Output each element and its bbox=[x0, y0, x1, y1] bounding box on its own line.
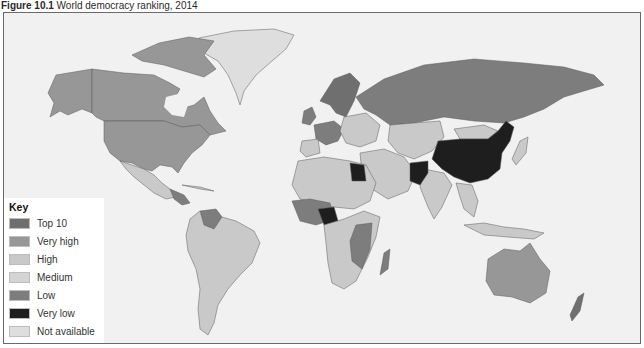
legend-item-very-high: Very high bbox=[9, 234, 79, 248]
legend-title: Key bbox=[9, 201, 28, 213]
legend-swatch bbox=[9, 326, 30, 337]
legend-label: Low bbox=[37, 290, 55, 301]
region-russia bbox=[356, 59, 604, 125]
legend-swatch bbox=[9, 290, 30, 301]
legend-label: High bbox=[37, 254, 58, 265]
region-egypt bbox=[350, 163, 366, 181]
region-iberia bbox=[300, 139, 320, 157]
region-indonesia bbox=[464, 223, 544, 239]
legend-swatch bbox=[9, 272, 30, 283]
region-south-america bbox=[186, 211, 260, 335]
region-central-america bbox=[170, 189, 190, 205]
map-legend: Key Top 10 Very high High Medium Low Ver… bbox=[4, 198, 104, 343]
legend-item-high: High bbox=[9, 252, 58, 266]
figure-title: Figure 10.1 World democracy ranking, 201… bbox=[1, 0, 198, 11]
region-eastern-europe bbox=[340, 113, 380, 147]
region-usa bbox=[104, 121, 210, 173]
region-scandinavia bbox=[320, 73, 360, 117]
legend-label: Very high bbox=[37, 236, 79, 247]
legend-label: Top 10 bbox=[37, 218, 67, 229]
legend-swatch bbox=[9, 236, 30, 247]
legend-label: Medium bbox=[37, 272, 73, 283]
legend-item-medium: Medium bbox=[9, 270, 73, 284]
legend-swatch bbox=[9, 218, 30, 229]
legend-swatch bbox=[9, 254, 30, 265]
legend-item-not-available: Not available bbox=[9, 324, 95, 338]
figure-label: Figure 10.1 bbox=[1, 0, 54, 11]
legend-swatch bbox=[9, 308, 30, 319]
region-caribbean bbox=[182, 185, 214, 191]
legend-item-top-10: Top 10 bbox=[9, 216, 67, 230]
legend-item-low: Low bbox=[9, 288, 55, 302]
region-madagascar bbox=[380, 249, 390, 275]
region-uk bbox=[302, 107, 316, 125]
region-australia bbox=[486, 243, 550, 303]
legend-label: Very low bbox=[37, 308, 75, 319]
region-se-asia bbox=[456, 183, 478, 217]
figure-caption: World democracy ranking, 2014 bbox=[57, 0, 198, 11]
region-canada-islands bbox=[132, 37, 216, 77]
world-map: Key Top 10 Very high High Medium Low Ver… bbox=[3, 12, 641, 344]
legend-label: Not available bbox=[37, 326, 95, 337]
region-new-zealand bbox=[570, 293, 584, 321]
legend-item-very-low: Very low bbox=[9, 306, 75, 320]
region-japan bbox=[512, 137, 528, 165]
region-alaska bbox=[48, 69, 92, 117]
